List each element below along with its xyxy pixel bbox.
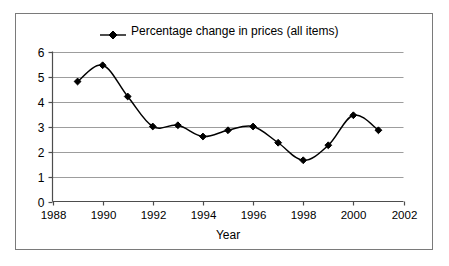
x-tick-label: 1998 bbox=[291, 209, 317, 221]
series-line-percentage-change bbox=[78, 65, 379, 160]
data-point-marker bbox=[300, 157, 307, 164]
x-tick-label: 1994 bbox=[191, 209, 217, 221]
x-tick-label: 2000 bbox=[341, 209, 367, 221]
x-tick-label: 1990 bbox=[91, 209, 117, 221]
y-tick-label: 2 bbox=[38, 146, 45, 160]
y-tick-label: 6 bbox=[38, 46, 45, 60]
y-tick-label: 5 bbox=[38, 71, 45, 85]
y-tick-label: 4 bbox=[38, 96, 45, 110]
x-tick-label: 2002 bbox=[392, 209, 418, 221]
x-axis-ticks bbox=[54, 202, 405, 206]
x-axis-title: Year bbox=[216, 228, 240, 242]
y-tick-label: 3 bbox=[38, 121, 45, 135]
chart-plot: 0123456 19881990199219941996199820002002… bbox=[0, 0, 449, 266]
x-axis-tick-labels: 19881990199219941996199820002002 bbox=[41, 209, 418, 221]
data-point-marker bbox=[99, 62, 106, 69]
x-tick-label: 1996 bbox=[241, 209, 267, 221]
y-axis-tick-labels: 0123456 bbox=[38, 46, 45, 210]
chart-figure: Percentage change in prices (all items) … bbox=[0, 0, 449, 266]
y-tick-label: 1 bbox=[38, 171, 45, 185]
data-point-marker bbox=[200, 133, 207, 140]
x-tick-label: 1988 bbox=[41, 209, 67, 221]
x-tick-label: 1992 bbox=[141, 209, 167, 221]
data-point-marker bbox=[250, 123, 257, 130]
data-point-marker bbox=[350, 112, 357, 119]
